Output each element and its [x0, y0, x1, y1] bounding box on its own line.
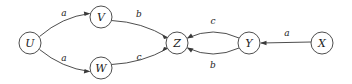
edge-y-z-top-arrowhead: [187, 34, 194, 39]
graph-svg: a a b c c b a U V W Z: [0, 0, 352, 84]
node-u[interactable]: U: [19, 32, 41, 54]
node-z-label: Z: [172, 37, 181, 50]
edge-y-z-bottom-path: [188, 48, 240, 54]
edge-v-z: [112, 21, 169, 40]
edge-y-z-bottom-arrowhead: [187, 48, 194, 53]
edge-label-w-z: c: [136, 52, 141, 62]
edge-label-x-y: a: [284, 28, 289, 38]
edge-y-z-top-path: [188, 32, 240, 38]
node-y[interactable]: Y: [238, 32, 260, 54]
edge-y-z-top: [187, 32, 239, 38]
edge-u-w-arrowhead: [84, 69, 90, 74]
node-w-label: W: [95, 62, 108, 75]
edge-label-y-z-bottom: b: [210, 60, 216, 70]
edge-label-y-z-top: c: [210, 16, 215, 26]
edge-v-z-path: [112, 21, 168, 38]
node-v-label: V: [97, 11, 106, 24]
edge-u-v-arrowhead: [84, 12, 90, 17]
edge-label-u-w: a: [61, 53, 66, 63]
edge-x-y-path: [261, 42, 311, 43]
node-x[interactable]: X: [311, 32, 333, 54]
edge-x-y: [260, 41, 311, 46]
node-w[interactable]: W: [90, 57, 112, 79]
node-x-label: X: [317, 37, 327, 50]
node-v[interactable]: V: [90, 6, 112, 28]
graph-diagram-canvas: a a b c c b a U V W Z: [0, 0, 352, 84]
edge-y-z-bottom: [187, 48, 239, 54]
edge-label-u-v: a: [61, 8, 66, 18]
node-u-label: U: [25, 37, 35, 50]
edge-x-y-arrowhead: [260, 41, 266, 46]
node-z[interactable]: Z: [166, 32, 188, 54]
edge-label-v-z: b: [136, 9, 142, 19]
